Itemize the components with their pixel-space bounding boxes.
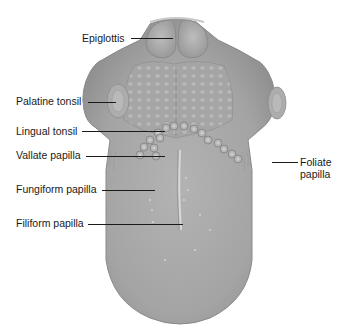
label-filiform-papilla: Filiform papilla [16,217,84,229]
vallate-papilla-center [143,146,146,149]
leader-fungiform-papilla [102,190,155,191]
speckle [187,189,189,191]
palatine-tonsil-left-inner [112,90,124,112]
speckle [194,249,196,251]
vallate-papilla-center [201,132,204,135]
vallate-papilla-center [223,148,226,151]
speckle [185,177,187,179]
label-lingual-tonsil: Lingual tonsil [16,125,77,137]
vallate-papilla-center [207,139,210,142]
leader-filiform-papilla [88,224,183,225]
tongue-illustration [0,0,344,332]
speckle [152,221,154,223]
vallate-papilla-center [217,142,220,145]
speckle [151,209,153,211]
speckle [209,229,211,231]
speckle [199,214,201,216]
speckle [164,259,166,261]
leader-lingual-tonsil [82,131,165,132]
vallate-papilla-center [173,125,176,128]
leader-vallate-papilla [86,156,165,157]
epiglottis-right [178,20,208,58]
vallate-papilla-center [159,137,162,140]
label-vallate-papilla: Vallate papilla [16,149,81,161]
palatine-tonsil-right-inner [272,93,282,113]
leader-foliate-papilla [272,162,298,163]
speckle [183,199,185,201]
leader-epiglottis [131,38,173,39]
label-epiglottis: Epiglottis [82,32,125,44]
label-foliate-papilla-line2: papilla [300,168,330,180]
leader-palatine-tonsil [88,102,116,103]
vallate-papilla-center [183,125,186,128]
vallate-papilla-center [153,147,156,150]
tongue-diagram: Epiglottis Palatine tonsil Lingual tonsi… [0,0,344,332]
vallate-papilla-center [231,153,234,156]
vallate-papilla-center [237,158,240,161]
speckle [149,199,151,201]
vallate-papilla-center [193,128,196,131]
vallate-papilla-center [165,127,168,130]
label-fungiform-papilla: Fungiform papilla [16,183,97,195]
label-foliate-papilla-line1: Foliate [300,156,332,168]
vallate-papilla-center [149,139,152,142]
label-palatine-tonsil: Palatine tonsil [16,95,81,107]
